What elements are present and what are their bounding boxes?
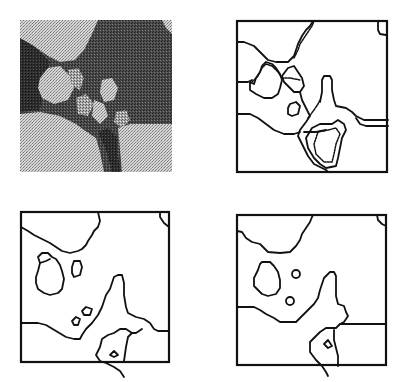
contour-map-fine xyxy=(236,20,388,173)
region-boundary xyxy=(254,262,280,296)
region-boundary xyxy=(72,261,82,277)
region-boundary xyxy=(72,317,80,325)
contour-map-medium xyxy=(20,211,170,363)
contour-map-coarse xyxy=(236,214,387,366)
region-boundary xyxy=(237,114,300,134)
region-boundary xyxy=(294,21,314,58)
region-boundary xyxy=(308,100,320,118)
region-boundary xyxy=(21,212,100,253)
region-boundary xyxy=(124,333,132,361)
region-boundary xyxy=(282,78,300,80)
region-boundary xyxy=(110,351,118,357)
small-region xyxy=(286,297,294,305)
region-boundary xyxy=(310,324,340,376)
region-boundary xyxy=(314,128,340,162)
contour-panel-fine xyxy=(236,20,388,173)
region-boundary xyxy=(288,102,300,116)
region-boundary xyxy=(237,272,386,324)
region-boundary xyxy=(237,215,313,253)
halftone-photo xyxy=(20,20,172,172)
region-boundary xyxy=(324,340,332,348)
region-boundary xyxy=(40,259,50,263)
region-boundary xyxy=(377,215,386,226)
panel-frame xyxy=(237,215,386,365)
region-boundary xyxy=(237,80,252,82)
original-image-panel xyxy=(20,20,172,172)
contour-panel-coarse xyxy=(236,214,387,366)
region-boundary xyxy=(160,212,169,227)
region-boundary xyxy=(21,275,169,339)
region-boundary xyxy=(378,21,386,35)
contour-panel-medium xyxy=(20,211,170,363)
region-boundary xyxy=(96,329,142,377)
region-boundary xyxy=(82,307,92,315)
panel-frame xyxy=(21,212,169,362)
region-boundary xyxy=(320,76,388,120)
small-region xyxy=(292,270,300,278)
region-boundary xyxy=(334,330,338,366)
